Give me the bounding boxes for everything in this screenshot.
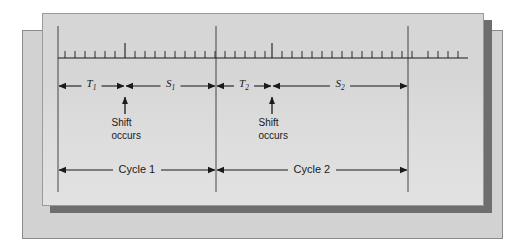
label-t2: T2 (239, 78, 249, 92)
label-shift-occurs-2: Shift occurs (259, 117, 288, 142)
label-cycle-1: Cycle 1 (119, 164, 156, 175)
shift-label-line-1: Shift (259, 117, 288, 130)
shift-arrow-group (125, 97, 272, 114)
label-shift-occurs-1: Shift occurs (112, 117, 141, 142)
cycle-boundary-lines (58, 26, 408, 192)
shift-label-line-2: occurs (112, 130, 141, 143)
label-cycle-2: Cycle 2 (294, 164, 331, 175)
time-ruler (58, 43, 468, 58)
label-s1: S1 (166, 78, 175, 92)
label-t1: T1 (87, 78, 97, 92)
label-s2: S2 (336, 78, 345, 92)
figure-root: T1 S1 T2 S2 Cycle 1 Cycle 2 Shift occurs… (0, 0, 525, 251)
shift-label-line-2: occurs (259, 130, 288, 143)
shift-label-line-1: Shift (112, 117, 141, 130)
